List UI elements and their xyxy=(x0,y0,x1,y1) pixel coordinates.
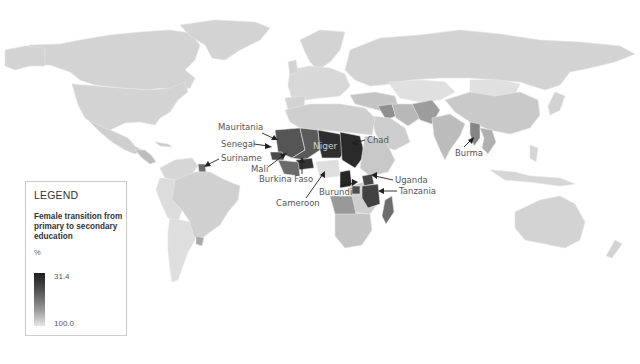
label-tanzania: Tanzania xyxy=(398,186,436,196)
label-cameroon: Cameroon xyxy=(276,198,320,208)
legend-heading: LEGEND xyxy=(34,189,78,201)
legend-min-label: 100.0 xyxy=(54,319,74,328)
label-niger: Niger xyxy=(313,141,337,151)
country-argentina-chile xyxy=(168,218,195,282)
label-mauritania: Mauritania xyxy=(218,122,263,132)
label-mali: Mali xyxy=(251,164,268,174)
label-chad: Chad xyxy=(367,135,389,145)
country-angola-zambia xyxy=(330,196,356,214)
indonesia xyxy=(490,170,575,186)
label-burma: Burma xyxy=(455,148,483,158)
country-australia xyxy=(515,196,585,248)
legend-color-scale xyxy=(34,273,45,326)
country-burundi xyxy=(352,186,360,194)
country-suriname xyxy=(198,164,206,172)
country-usa xyxy=(72,82,188,130)
country-madagascar xyxy=(382,196,394,224)
philippines xyxy=(530,145,538,162)
label-suriname: Suriname xyxy=(221,153,262,163)
label-burkina-faso: Burkina Faso xyxy=(259,174,313,184)
country-alaska-usa xyxy=(5,46,45,70)
country-uruguay xyxy=(196,236,204,246)
country-southern-africa xyxy=(335,212,372,248)
arrowhead-senegal xyxy=(265,143,272,149)
europe xyxy=(285,30,350,110)
label-uganda: Uganda xyxy=(395,175,428,185)
country-japan xyxy=(548,92,565,115)
country-kazakhstan xyxy=(388,80,455,102)
oceania xyxy=(515,196,622,258)
legend-subtitle: Female transition from primary to second… xyxy=(34,212,129,242)
south-america xyxy=(156,158,240,282)
map-legend: LEGEND Female transition from primary to… xyxy=(25,181,127,336)
country-new-zealand xyxy=(606,240,622,258)
europe-uk-ireland xyxy=(288,60,298,74)
caribbean xyxy=(155,142,172,147)
legend-max-label: 31.4 xyxy=(54,272,70,281)
label-senegal: Senegal xyxy=(221,139,255,149)
legend-unit: % xyxy=(34,248,41,257)
label-burundi: Burundi xyxy=(319,187,352,197)
country-central-america xyxy=(135,150,156,164)
country-nigeria xyxy=(316,160,340,178)
europe-scandinavia xyxy=(300,30,345,70)
arrow-uganda xyxy=(375,176,393,180)
